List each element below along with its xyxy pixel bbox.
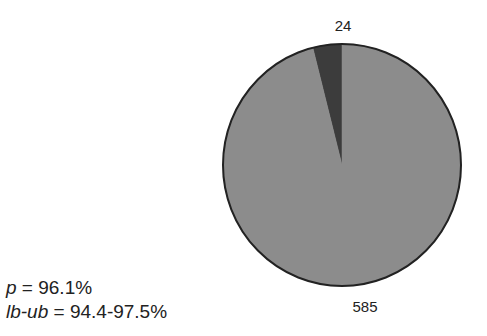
proportion-symbol: p (6, 277, 17, 298)
ci-value: = 94.4-97.5% (48, 301, 167, 322)
confidence-interval-line: lb-ub = 94.4-97.5% (6, 300, 167, 324)
proportion-value: = 96.1% (17, 277, 93, 298)
pie-slice-585 (223, 44, 461, 286)
stats-block: p = 96.1% lb-ub = 94.4-97.5% (6, 276, 167, 324)
slice-label-small: 24 (335, 17, 352, 34)
ci-symbol: lb-ub (6, 301, 48, 322)
slice-label-large: 585 (352, 298, 377, 315)
proportion-line: p = 96.1% (6, 276, 167, 300)
